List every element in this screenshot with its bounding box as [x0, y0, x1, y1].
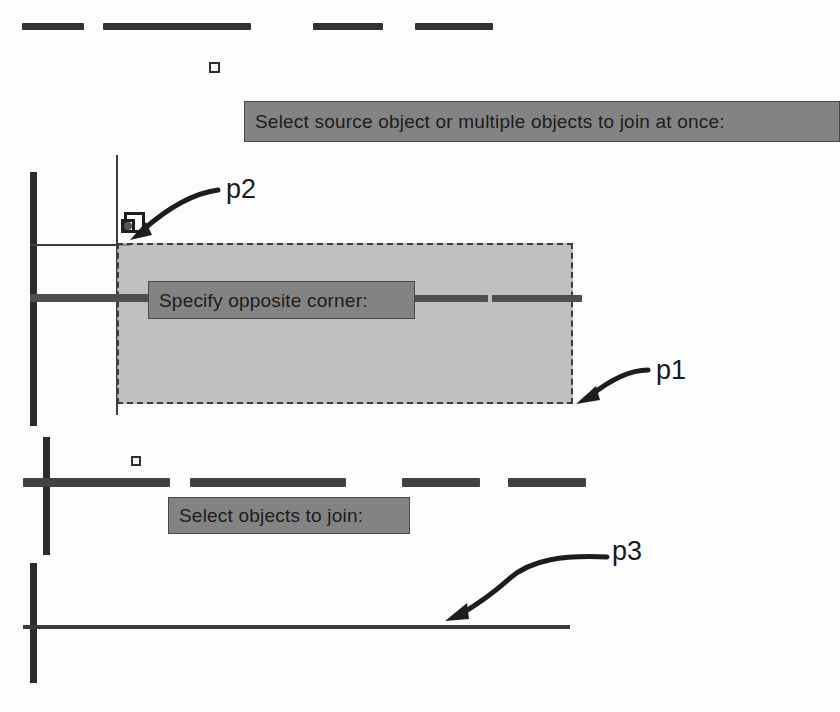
dash-segment — [492, 295, 582, 302]
prompt-select-source-object: Select source object or multiple objects… — [244, 101, 840, 142]
middle-vertical-line-thick — [43, 437, 50, 555]
figure-canvas: Select source object or multiple objects… — [0, 0, 840, 712]
callout-p2-text: p2 — [226, 174, 256, 204]
dash-segment — [313, 23, 383, 30]
dash-segment — [190, 478, 346, 487]
dash-segment — [23, 478, 170, 487]
pickbox-cursor-top — [209, 62, 220, 73]
dash-segment — [402, 478, 480, 487]
selection-window — [117, 243, 573, 404]
bottom-vertical-line-thick — [30, 563, 37, 683]
arrow-to-p1 — [570, 358, 660, 413]
callout-label-p2: p2 — [226, 176, 256, 203]
callout-label-p3: p3 — [612, 538, 642, 565]
callout-p3-text: p3 — [612, 536, 642, 566]
prompt-select-objects-to-join-text: Select objects to join: — [169, 506, 363, 525]
dash-segment — [414, 295, 488, 302]
bottom-horizontal-line — [23, 625, 570, 629]
callout-p1-text: p1 — [656, 355, 686, 385]
prompt-select-source-object-text: Select source object or multiple objects… — [245, 112, 725, 131]
prompt-specify-opposite-corner-text: Specify opposite corner: — [149, 291, 368, 310]
dash-segment — [415, 23, 493, 30]
arrow-to-p3 — [435, 545, 615, 630]
dash-segment — [103, 23, 251, 30]
prompt-specify-opposite-corner: Specify opposite corner: — [148, 281, 415, 319]
osnap-center-dot — [124, 222, 132, 230]
dash-segment — [22, 23, 84, 30]
pickbox-cursor-middle — [131, 456, 141, 466]
callout-label-p1: p1 — [656, 357, 686, 384]
upper-horizontal-line-thin — [30, 244, 130, 246]
dash-segment — [508, 478, 586, 487]
prompt-select-objects-to-join: Select objects to join: — [168, 497, 410, 534]
